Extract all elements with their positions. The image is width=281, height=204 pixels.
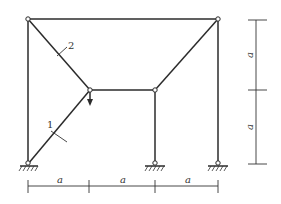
cut-mark-2 [57, 47, 67, 56]
support-middle [145, 161, 165, 171]
member-label-1: 1 [47, 119, 53, 130]
frame-members [28, 19, 218, 164]
frame-diagram: 2 1 [0, 0, 281, 204]
dimension-horizontal: a a a [28, 174, 218, 193]
support-right [208, 161, 228, 171]
cut-mark-1 [51, 131, 67, 142]
node-top-left [26, 17, 30, 21]
dim-h-1: a [57, 174, 63, 185]
dimension-vertical: a a [244, 20, 267, 164]
dim-v-2: a [244, 124, 255, 130]
right-diagonal [155, 19, 218, 90]
dim-v-1: a [244, 52, 255, 58]
member-1-diagonal [28, 90, 90, 164]
dim-h-2: a [120, 174, 126, 185]
node-middle [153, 88, 157, 92]
node-top-right [216, 17, 220, 21]
node-inner [88, 88, 92, 92]
dim-h-3: a [185, 174, 191, 185]
member-label-2: 2 [68, 40, 74, 51]
support-left [19, 161, 38, 171]
